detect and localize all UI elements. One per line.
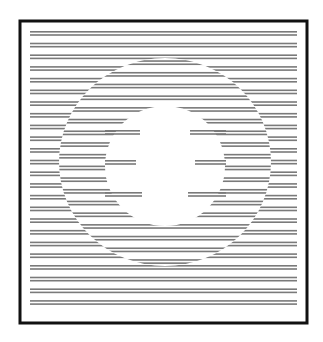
horizontal-line bbox=[30, 265, 297, 267]
horizontal-line bbox=[30, 49, 297, 51]
horizontal-line bbox=[30, 218, 297, 220]
horizontal-line bbox=[30, 186, 297, 188]
horizontal-line bbox=[30, 37, 297, 39]
horizontal-line bbox=[105, 133, 140, 135]
horizontal-line bbox=[30, 242, 297, 244]
horizontal-line bbox=[30, 60, 297, 62]
horizontal-line bbox=[30, 268, 297, 270]
horizontal-line bbox=[188, 195, 226, 197]
horizontal-line bbox=[30, 221, 297, 223]
illusion-canvas bbox=[0, 0, 323, 342]
horizontal-line bbox=[30, 306, 297, 308]
horizontal-line bbox=[30, 207, 297, 209]
horizontal-line bbox=[30, 43, 297, 45]
horizontal-line bbox=[30, 110, 297, 112]
horizontal-line bbox=[30, 236, 297, 238]
horizontal-line bbox=[195, 163, 226, 165]
horizontal-line bbox=[30, 180, 297, 182]
horizontal-line bbox=[30, 171, 297, 173]
horizontal-line bbox=[30, 160, 297, 162]
horizontal-line bbox=[30, 224, 297, 226]
horizontal-line bbox=[30, 113, 297, 115]
horizontal-line bbox=[30, 136, 297, 138]
horizontal-line bbox=[30, 87, 297, 89]
horizontal-line bbox=[30, 259, 297, 261]
horizontal-line bbox=[30, 104, 297, 106]
horizontal-line bbox=[30, 84, 297, 86]
horizontal-line bbox=[30, 294, 297, 296]
horizontal-line bbox=[30, 280, 297, 282]
horizontal-line bbox=[30, 66, 297, 68]
horizontal-line bbox=[30, 157, 297, 159]
horizontal-line bbox=[30, 148, 297, 150]
horizontal-line bbox=[30, 233, 297, 235]
horizontal-line bbox=[30, 63, 297, 65]
horizontal-line bbox=[30, 201, 297, 203]
horizontal-line bbox=[105, 163, 136, 165]
horizontal-line bbox=[190, 130, 226, 132]
horizontal-line bbox=[30, 286, 297, 288]
horizontal-line bbox=[30, 262, 297, 264]
horizontal-line bbox=[105, 195, 142, 197]
horizontal-line bbox=[30, 125, 297, 127]
horizontal-line bbox=[105, 130, 140, 132]
horizontal-line bbox=[30, 46, 297, 48]
horizontal-line bbox=[30, 169, 297, 171]
horizontal-line bbox=[30, 90, 297, 92]
horizontal-line bbox=[30, 54, 297, 56]
horizontal-line bbox=[30, 239, 297, 241]
horizontal-line bbox=[30, 212, 297, 214]
horizontal-line bbox=[30, 101, 297, 103]
horizontal-line bbox=[30, 128, 297, 130]
horizontal-line bbox=[30, 192, 297, 194]
horizontal-line bbox=[30, 245, 297, 247]
horizontal-line bbox=[30, 163, 297, 165]
horizontal-line bbox=[30, 40, 297, 42]
horizontal-line bbox=[190, 133, 226, 135]
horizontal-line bbox=[30, 309, 297, 311]
horizontal-line bbox=[105, 192, 142, 194]
horizontal-line bbox=[30, 288, 297, 290]
horizontal-line bbox=[30, 247, 297, 249]
center-figure-intrusions bbox=[105, 130, 226, 197]
horizontal-line bbox=[30, 154, 297, 156]
horizontal-line bbox=[30, 204, 297, 206]
horizontal-line bbox=[30, 119, 297, 121]
horizontal-line bbox=[30, 34, 297, 36]
horizontal-line bbox=[30, 251, 297, 253]
horizontal-line bbox=[30, 31, 297, 33]
horizontal-line bbox=[30, 230, 297, 232]
horizontal-line bbox=[30, 134, 297, 136]
horizontal-line bbox=[30, 58, 297, 60]
horizontal-line bbox=[30, 81, 297, 83]
horizontal-line bbox=[30, 75, 297, 77]
horizontal-line bbox=[30, 78, 297, 80]
horizontal-line bbox=[30, 69, 297, 71]
horizontal-line bbox=[30, 95, 297, 97]
horizontal-line bbox=[30, 107, 297, 109]
horizontal-line bbox=[30, 274, 297, 276]
horizontal-line bbox=[30, 177, 297, 179]
horizontal-line bbox=[30, 189, 297, 191]
horizontal-line bbox=[30, 277, 297, 279]
horizontal-line bbox=[188, 192, 226, 194]
horizontal-line bbox=[30, 257, 297, 259]
horizontal-line bbox=[30, 303, 297, 305]
horizontal-line bbox=[30, 52, 297, 54]
horizontal-line bbox=[30, 300, 297, 302]
horizontal-line bbox=[30, 122, 297, 124]
horizontal-line bbox=[30, 227, 297, 229]
horizontal-line bbox=[30, 283, 297, 285]
horizontal-line bbox=[30, 140, 297, 142]
horizontal-line bbox=[30, 72, 297, 74]
horizontal-line bbox=[30, 271, 297, 273]
horizontal-line bbox=[30, 93, 297, 95]
horizontal-line bbox=[30, 175, 297, 177]
horizontal-line bbox=[30, 292, 297, 294]
horizontal-line bbox=[30, 210, 297, 212]
horizontal-line bbox=[30, 116, 297, 118]
horizontal-line bbox=[105, 160, 136, 162]
horizontal-line bbox=[30, 198, 297, 200]
horizontal-line bbox=[30, 145, 297, 147]
horizontal-line bbox=[30, 216, 297, 218]
